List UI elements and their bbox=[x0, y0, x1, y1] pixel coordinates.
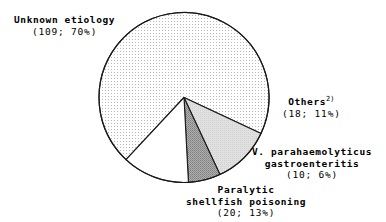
slice-label-paralytic-shellfish-poisoning: Paralytic shellfish poisoning (20; 13%) bbox=[186, 184, 306, 219]
slice-label-others-value: (18; 11%) bbox=[282, 108, 341, 120]
pie-chart-figure: Unknown etiology (109; 70%) Others2) (18… bbox=[0, 0, 386, 222]
slice-label-paralytic-shellfish-poisoning-value: (20; 13%) bbox=[186, 207, 306, 219]
slice-label-v-parahaemolyticus-value: (10; 6%) bbox=[252, 169, 372, 181]
slice-label-others: Others2) (18; 11%) bbox=[282, 94, 341, 119]
slice-label-v-parahaemolyticus-name-1: V. parahaemolyticus bbox=[252, 146, 372, 158]
slice-label-v-parahaemolyticus-name-2: gastroenteritis bbox=[252, 158, 372, 170]
footnote-marker-2: 2) bbox=[326, 95, 334, 103]
slice-label-unknown-etiology-value: (109; 70%) bbox=[14, 26, 115, 38]
slice-label-unknown-etiology: Unknown etiology (109; 70%) bbox=[14, 14, 115, 37]
slice-label-paralytic-shellfish-poisoning-name-1: Paralytic bbox=[186, 184, 306, 196]
slice-label-unknown-etiology-name: Unknown etiology bbox=[14, 14, 115, 26]
slice-label-others-name: Others2) bbox=[282, 94, 341, 108]
slice-label-paralytic-shellfish-poisoning-name-2: shellfish poisoning bbox=[186, 196, 306, 208]
slice-label-v-parahaemolyticus: V. parahaemolyticus gastroenteritis (10;… bbox=[252, 146, 372, 181]
